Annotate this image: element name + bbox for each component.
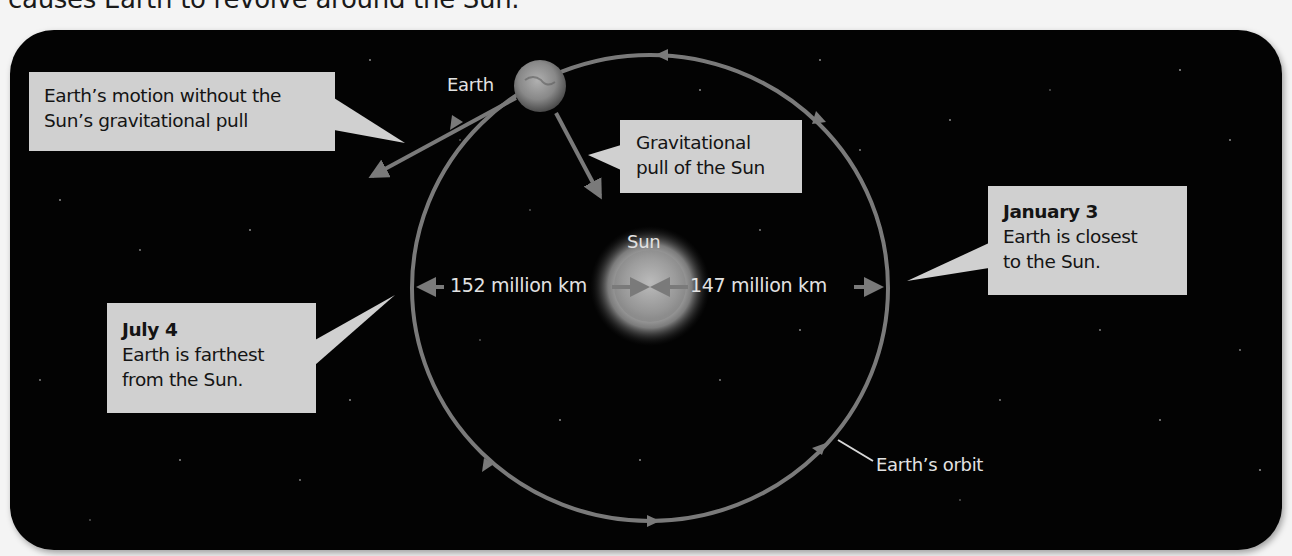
- callout-aphelion-line-1: Earth is farthest: [122, 342, 316, 367]
- callout-perihelion-line-2: to the Sun.: [1003, 249, 1187, 274]
- orbit-diagram-panel: Earth’s motion without the Sun’s gravita…: [10, 30, 1282, 550]
- callout-gravity-line-1: Gravitational: [636, 130, 802, 155]
- callout-inertia: Earth’s motion without the Sun’s gravita…: [29, 72, 335, 151]
- figure-caption: causes Earth to revolve around the Sun.: [8, 0, 519, 14]
- callout-perihelion-line-1: Earth is closest: [1003, 224, 1187, 249]
- orbit-label-leader: [838, 440, 873, 461]
- aphelion-distance: 152 million km: [450, 274, 587, 296]
- callout-perihelion: January 3 Earth is closest to the Sun.: [988, 186, 1187, 295]
- orbit-label: Earth’s orbit: [876, 454, 983, 475]
- callout-gravity: Gravitational pull of the Sun: [620, 120, 802, 193]
- earth-icon: [514, 60, 566, 112]
- perihelion-distance: 147 million km: [690, 274, 827, 296]
- callout-inertia-line-2: Sun’s gravitational pull: [44, 108, 335, 133]
- callout-aphelion: July 4 Earth is farthest from the Sun.: [107, 303, 316, 413]
- earth-label: Earth: [447, 74, 494, 95]
- aphelion-date: July 4: [122, 317, 316, 342]
- callout-inertia-line-1: Earth’s motion without the: [44, 83, 335, 108]
- sun-label: Sun: [627, 231, 660, 252]
- perihelion-date: January 3: [1003, 199, 1187, 224]
- callout-aphelion-line-2: from the Sun.: [122, 367, 316, 392]
- callout-gravity-line-2: pull of the Sun: [636, 155, 802, 180]
